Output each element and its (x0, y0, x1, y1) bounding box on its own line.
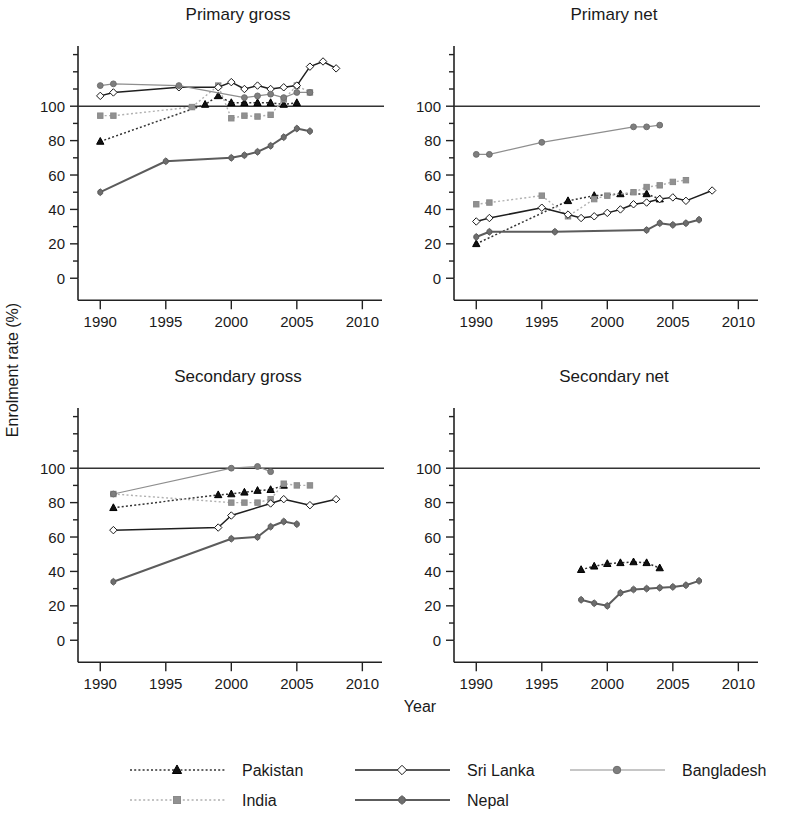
data-point (254, 82, 261, 89)
x-tick-label-1990-primary_gross: 1990 (84, 313, 117, 330)
x-tick-label-2005-secondary_gross: 2005 (280, 675, 313, 692)
legend-item-bangladesh[interactable]: Bangladesh (570, 762, 767, 779)
legend-marker-circle-icon (613, 766, 620, 773)
y-tick-label-20-primary_net: 20 (424, 235, 441, 252)
data-point (110, 526, 117, 533)
data-point (708, 187, 715, 194)
y-tick-label-60-primary_net: 60 (424, 167, 441, 184)
data-point (228, 465, 234, 471)
data-point (487, 228, 492, 235)
data-point (539, 193, 544, 198)
legend-item-pakistan[interactable]: Pakistan (130, 762, 303, 779)
data-point (255, 464, 261, 470)
x-tick-label-2000-secondary_gross: 2000 (215, 675, 248, 692)
data-point (110, 81, 116, 87)
data-point (591, 562, 598, 569)
data-point (630, 558, 637, 565)
data-point (255, 534, 260, 541)
data-point (670, 179, 675, 184)
data-point (474, 202, 479, 207)
data-point (308, 128, 313, 135)
data-point (229, 500, 234, 505)
legend-item-sri-lanka[interactable]: Sri Lanka (355, 762, 535, 779)
y-tick-label-80-primary_net: 80 (424, 132, 441, 149)
legend-marker-diamond-icon (397, 765, 406, 774)
data-point (306, 501, 313, 508)
data-point (604, 209, 611, 216)
panel-primary_gross: Primary gross020406080100199019952000200… (40, 5, 384, 330)
enrolment-rate-figure: Primary gross020406080100199019952000200… (0, 0, 795, 817)
data-point (579, 596, 584, 603)
y-tick-label-0-secondary_net: 0 (433, 632, 441, 649)
data-point (631, 124, 637, 130)
data-point (281, 95, 287, 101)
y-tick-label-60-primary_gross: 60 (48, 167, 65, 184)
data-point (294, 125, 299, 132)
legend-item-nepal[interactable]: Nepal (355, 792, 509, 809)
data-point (255, 148, 260, 155)
data-point (111, 578, 116, 585)
data-point (644, 227, 649, 234)
data-point (176, 83, 182, 89)
legend-marker-triangle-icon (172, 765, 181, 774)
series-line-nepal (113, 522, 296, 582)
y-tick-label-100-secondary_gross: 100 (40, 460, 65, 477)
data-point (242, 95, 248, 101)
series-pakistan-primary_gross (97, 92, 301, 144)
data-point (332, 495, 339, 502)
legend-item-india[interactable]: India (130, 792, 277, 809)
data-point (473, 151, 479, 157)
data-point (163, 158, 168, 165)
data-point (268, 142, 273, 149)
x-tick-label-2000-primary_gross: 2000 (215, 313, 248, 330)
legend: PakistanSri LankaBangladeshIndiaNepal (130, 762, 767, 809)
y-tick-label-100-primary_gross: 100 (40, 98, 65, 115)
data-point (268, 469, 274, 475)
data-point (294, 483, 299, 488)
data-point (657, 122, 663, 128)
x-tick-label-2005-primary_net: 2005 (656, 313, 689, 330)
data-point (644, 124, 650, 130)
x-tick-label-2000-secondary_net: 2000 (591, 675, 624, 692)
series-nepal-secondary_net (579, 578, 702, 610)
panel-primary_net: Primary net02040608010019901995200020052… (416, 5, 760, 330)
series-nepal-primary_gross (98, 125, 312, 195)
data-point (228, 490, 235, 497)
data-point (670, 584, 675, 591)
plot-area-secondary_gross (110, 464, 340, 586)
data-point (228, 78, 235, 85)
x-tick-label-2010-secondary_gross: 2010 (346, 675, 379, 692)
data-point (564, 197, 571, 204)
data-point (111, 113, 116, 118)
data-point (657, 220, 662, 227)
x-tick-label-1995-primary_net: 1995 (525, 313, 558, 330)
x-tick-label-1990-primary_net: 1990 (460, 313, 493, 330)
data-point (682, 197, 689, 204)
data-point (241, 85, 248, 92)
data-point (697, 216, 702, 223)
data-point (656, 564, 663, 571)
data-point (590, 213, 597, 220)
data-point (98, 189, 103, 196)
y-tick-label-0-primary_net: 0 (433, 270, 441, 287)
data-point (242, 113, 247, 118)
x-tick-label-1995-primary_gross: 1995 (149, 313, 182, 330)
data-point (486, 151, 492, 157)
data-point (473, 218, 480, 225)
panel-title-primary_gross: Primary gross (186, 5, 291, 24)
series-line-nepal (100, 129, 310, 193)
data-point (630, 201, 637, 208)
series-sri-lanka-secondary_gross (110, 495, 340, 533)
series-bangladesh-primary_net (473, 122, 662, 157)
data-point (201, 101, 208, 108)
x-tick-label-1995-secondary_net: 1995 (525, 675, 558, 692)
data-point (97, 138, 104, 145)
data-point (605, 602, 610, 609)
data-point (319, 58, 326, 65)
legend-label-india: India (242, 792, 277, 809)
data-point (242, 500, 247, 505)
x-tick-label-1990-secondary_gross: 1990 (84, 675, 117, 692)
legend-label-nepal: Nepal (467, 792, 509, 809)
data-point (684, 220, 689, 227)
data-point (474, 234, 479, 241)
